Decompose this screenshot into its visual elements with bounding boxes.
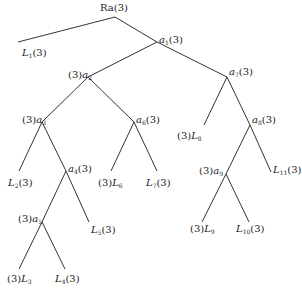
node-a3: (3)a3: [22, 114, 46, 129]
node-l1: L1(3): [22, 47, 47, 62]
node-l7: L7(3): [146, 177, 171, 192]
node-l8-pre: (3): [177, 130, 191, 141]
node-a5-sub: 5: [38, 218, 42, 225]
edge-a7-a8: [227, 77, 250, 125]
node-l9: (3)L9: [190, 223, 215, 238]
edge-a3-a4: [42, 122, 66, 171]
node-l2-base: L: [8, 177, 15, 188]
node-ra: Ra(3): [100, 2, 128, 14]
edge-a9-l10: [226, 174, 249, 222]
node-l11-base: L: [273, 164, 280, 175]
edge-ra-a1: [115, 17, 157, 42]
node-l3-base: L: [21, 273, 28, 284]
node-a3-pre: (3): [22, 114, 36, 125]
node-l7-post: (3): [156, 177, 170, 188]
node-l6: (3)L6: [98, 177, 123, 192]
node-l8-sub: 8: [198, 135, 202, 142]
node-l3: (3)L3: [7, 273, 32, 288]
node-l3-sub: 3: [28, 278, 32, 285]
node-a2-sub: 2: [88, 74, 92, 81]
node-a7: a7(3): [229, 66, 253, 81]
node-a1-post: (3): [169, 34, 183, 45]
node-l7-base: L: [146, 177, 153, 188]
edge-a5-l3: [19, 222, 42, 269]
node-l11: L11(3): [273, 164, 301, 179]
edge-a6-l6: [111, 122, 134, 171]
edge-a6-l7: [134, 122, 157, 171]
node-l4-base: L: [55, 273, 62, 284]
node-l3-pre: (3): [7, 273, 21, 284]
node-a2-pre: (3): [68, 69, 82, 80]
edge-a5-l4: [42, 222, 65, 269]
node-l5-base: L: [91, 224, 98, 235]
node-l10-post: (3): [250, 223, 264, 234]
edge-a4-l5: [66, 171, 89, 222]
node-l9-pre: (3): [190, 223, 204, 234]
node-a4-post: (3): [78, 163, 92, 174]
node-a8-post: (3): [262, 114, 276, 125]
node-a5: (3)a5: [18, 213, 42, 228]
node-a6-post: (3): [146, 114, 160, 125]
node-a8: a8(3): [252, 114, 276, 129]
node-ra-post: (3): [114, 2, 128, 13]
node-l1-base: L: [22, 47, 29, 58]
node-l10: L10(3): [236, 223, 264, 238]
node-l8-base: L: [191, 130, 198, 141]
edge-a8-l11: [250, 125, 271, 172]
tree-diagram: Ra(3) L1(3) a1(3) (3)a2 a7(3) (3)a3 a6(3…: [0, 0, 302, 290]
edge-a2-a6: [88, 77, 134, 122]
tree-edges: [0, 0, 302, 290]
node-l5-post: (3): [101, 224, 115, 235]
node-a9-sub: 9: [219, 170, 223, 177]
edge-a7-l8: [204, 77, 227, 125]
node-l10-base: L: [236, 223, 243, 234]
node-a7-post: (3): [239, 66, 253, 77]
node-l5: L5(3): [91, 224, 116, 239]
node-l11-post: (3): [287, 164, 301, 175]
node-l2-post: (3): [18, 177, 32, 188]
edge-a3-l2: [19, 122, 42, 171]
edge-a9-l9: [202, 174, 226, 222]
node-l6-pre: (3): [98, 177, 112, 188]
node-l2: L2(3): [8, 177, 33, 192]
node-l9-base: L: [204, 223, 211, 234]
edge-a1-a2: [88, 42, 157, 77]
node-a4: a4(3): [68, 163, 92, 178]
node-a9-pre: (3): [199, 165, 213, 176]
node-a6: a6(3): [136, 114, 160, 129]
node-a1: a1(3): [159, 34, 183, 49]
node-l4-post: (3): [65, 273, 79, 284]
node-l1-post: (3): [32, 47, 46, 58]
node-a9: (3)a9: [199, 165, 223, 180]
node-a2: (3)a2: [68, 69, 92, 84]
edge-a8-a9: [226, 125, 250, 174]
edge-ra-l1: [18, 17, 115, 42]
node-a5-pre: (3): [18, 213, 32, 224]
node-l6-base: L: [112, 177, 119, 188]
node-a3-sub: 3: [42, 119, 46, 126]
node-l6-sub: 6: [119, 182, 123, 189]
edge-a4-a5: [42, 171, 66, 222]
node-l4: L4(3): [55, 273, 80, 288]
node-ra-base: Ra: [100, 2, 114, 13]
node-l9-sub: 9: [211, 228, 215, 235]
node-l8: (3)L8: [177, 130, 202, 145]
